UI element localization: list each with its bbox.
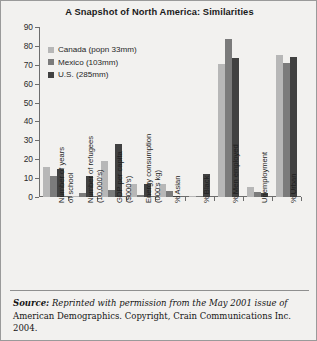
bar — [276, 55, 283, 197]
legend-item: Canada (popn 33mm) — [48, 44, 137, 55]
legend-item: Mexico (103mm) — [48, 57, 137, 68]
y-tick-label: 70 — [24, 60, 33, 70]
y-tick-label: 20 — [24, 154, 33, 164]
chart-figure: A Snapshot of North America: Similaritie… — [0, 0, 317, 341]
x-tick-mark — [214, 197, 215, 201]
y-tick-label: 30 — [24, 135, 33, 145]
bar — [50, 176, 57, 197]
x-tick-mark — [243, 197, 244, 201]
y-tick-label: 90 — [24, 22, 33, 32]
x-category-label: % Men employed — [232, 125, 241, 203]
bar — [247, 187, 254, 197]
legend-swatch — [48, 72, 54, 78]
footer-divider — [10, 290, 309, 291]
x-tick-mark — [301, 197, 302, 201]
x-category-label: Number of yearsof school — [58, 125, 75, 203]
y-tick-label: 80 — [24, 41, 33, 51]
chart-title: A Snapshot of North America: Similaritie… — [1, 7, 317, 17]
source-label: Source: — [13, 298, 49, 308]
chart-legend: Canada (popn 33mm)Mexico (103mm)U.S. (28… — [48, 44, 137, 82]
source-italic-text: Reprinted with permission from the May 2… — [52, 298, 288, 308]
legend-item: U.S. (285mm) — [48, 69, 137, 80]
x-category-label: % Urban — [290, 125, 299, 203]
y-tick-label: 50 — [24, 98, 33, 108]
y-tick-label: 0 — [28, 192, 33, 202]
legend-label: Canada (popn 33mm) — [58, 45, 137, 54]
bar — [43, 167, 50, 197]
x-category-label: % Black — [203, 125, 212, 203]
bar — [218, 64, 225, 197]
source-rest-text: American Demographics. Copyright, Crain … — [13, 311, 291, 334]
y-tick-label: 40 — [24, 116, 33, 126]
bar — [189, 196, 196, 198]
x-category-label: Number of refugees(10,000's) — [87, 125, 104, 203]
x-category-label: Energy consumption(000's kg) — [145, 125, 162, 203]
legend-label: Mexico (103mm) — [58, 58, 118, 67]
x-category-label: % Asian — [174, 125, 183, 203]
legend-label: U.S. (285mm) — [58, 70, 108, 79]
x-category-label: GDP per capita($000's) — [116, 125, 133, 203]
y-tick-mark — [35, 197, 39, 198]
legend-swatch — [48, 47, 54, 53]
y-tick-label: 10 — [24, 173, 33, 183]
source-note: Source: Reprinted with permission from t… — [13, 297, 309, 335]
x-tick-mark — [272, 197, 273, 201]
x-category-label: Unemployment — [261, 125, 270, 203]
x-tick-mark — [185, 197, 186, 201]
legend-swatch — [48, 59, 54, 65]
y-tick-label: 60 — [24, 79, 33, 89]
